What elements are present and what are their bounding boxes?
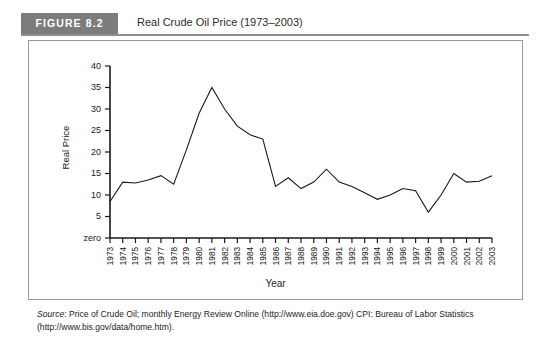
y-tick-group: zero510152025303540 [83,61,110,243]
x-tick-label: 1995 [386,247,395,266]
x-tick-label: 1998 [424,247,433,266]
y-tick-label: 30 [91,104,101,114]
x-tick-label: 1990 [322,247,331,266]
figure-container: FIGURE 8.2 Real Crude Oil Price (1973–20… [0,0,551,361]
y-tick-label: 40 [91,61,101,71]
x-axis-title: Year [28,278,523,289]
header-divider [21,34,529,36]
data-series-real-price [110,88,492,213]
y-tick-label: 10 [91,190,101,200]
x-tick-label: 2001 [463,247,472,266]
x-tick-label: 1984 [246,247,255,266]
x-tick-label: 2002 [475,247,484,266]
figure-header: FIGURE 8.2 Real Crude Oil Price (1973–20… [21,13,529,34]
x-tick-label: 1985 [259,247,268,266]
x-tick-label: 1981 [208,247,217,266]
x-tick-label: 1980 [195,247,204,266]
x-tick-label: 1989 [310,247,319,266]
y-tick-label: zero [83,233,101,243]
y-tick-label: 20 [91,147,101,157]
x-tick-label: 1987 [284,247,293,266]
x-tick-label: 2000 [450,247,459,266]
line-chart-svg: zero510152025303540 19731974197519761977… [28,40,523,300]
x-tick-label: 1977 [157,247,166,266]
x-tick-label: 1994 [373,247,382,266]
x-tick-label: 1991 [335,247,344,266]
chart-area: Real Price zero510152025303540 197319741… [28,40,523,300]
x-tick-label: 1975 [131,247,140,266]
y-tick-label: 5 [96,211,101,221]
x-tick-label: 1996 [399,247,408,266]
figure-number-badge: FIGURE 8.2 [21,13,118,34]
x-tick-label: 1982 [221,247,230,266]
x-tick-label: 1976 [144,247,153,266]
y-tick-label: 15 [91,168,101,178]
source-label: Source [37,309,64,319]
x-tick-label: 1986 [272,247,281,266]
x-tick-label: 1979 [182,247,191,266]
x-tick-label: 2003 [488,247,497,266]
x-tick-label: 1993 [361,247,370,266]
x-tick-label: 1999 [437,247,446,266]
x-tick-label: 1992 [348,247,357,266]
figure-title: Real Crude Oil Price (1973–2003) [137,16,303,28]
source-note: Source: Price of Crude Oil; monthly Ener… [37,308,517,333]
x-tick-label: 1974 [119,247,128,266]
x-tick-label: 1988 [297,247,306,266]
x-tick-label: 1978 [170,247,179,266]
x-tick-group: 1973197419751976197719781979198019811982… [106,238,497,265]
y-tick-label: 35 [91,82,101,92]
x-tick-label: 1973 [106,247,115,266]
x-tick-label: 1997 [412,247,421,266]
y-tick-label: 25 [91,125,101,135]
x-tick-label: 1983 [233,247,242,266]
source-text: : Price of Crude Oil; monthly Energy Rev… [37,309,474,332]
